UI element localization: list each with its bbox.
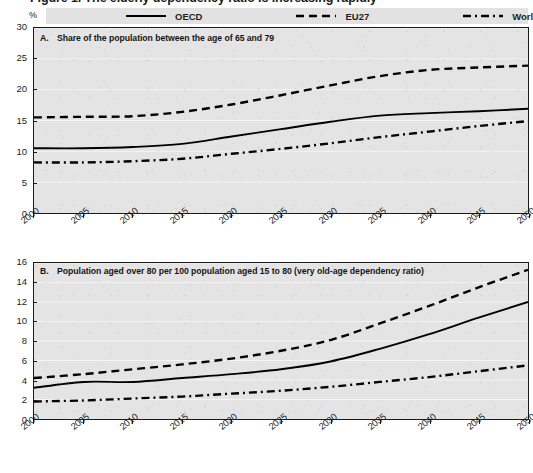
legend-item-oecd[interactable]: OECD (124, 8, 202, 24)
y-tick-label: 6 (7, 356, 27, 366)
line-dashdot-icon (461, 11, 505, 21)
figure-root: Figure 1. The elderly dependency ratio i… (0, 0, 533, 473)
y-tick-label: 2 (7, 395, 27, 405)
y-tick-mark (33, 302, 37, 303)
y-tick-label: 5 (7, 178, 27, 188)
legend-label-world: World (512, 11, 533, 22)
y-tick-label: 16 (7, 257, 27, 267)
y-tick-mark (33, 183, 37, 184)
chart-legend: OECD EU27 World (46, 8, 528, 24)
legend-item-eu27[interactable]: EU27 (294, 8, 369, 24)
y-tick-mark (33, 381, 37, 382)
y-tick-label: 8 (7, 336, 27, 346)
y-tick-mark (33, 282, 37, 283)
legend-label-oecd: OECD (175, 11, 202, 22)
y-tick-label: 14 (7, 277, 27, 287)
y-tick-label: 25 (7, 53, 27, 63)
line-solid-icon (124, 11, 168, 21)
y-tick-label: 12 (7, 297, 27, 307)
y-tick-mark (33, 121, 37, 122)
panel-b-plot-area[interactable] (33, 262, 529, 420)
panel-b-caption-text: Population aged over 80 per 100 populati… (57, 266, 424, 276)
panel-a-caption: A.Share of the population between the ag… (40, 33, 274, 43)
y-tick-mark (33, 341, 37, 342)
panel-b-letter: B. (40, 266, 57, 276)
legend-item-world[interactable]: World (461, 8, 533, 24)
y-tick-mark (33, 89, 37, 90)
legend-label-eu27: EU27 (345, 11, 369, 22)
panel-a-letter: A. (40, 33, 57, 43)
y-tick-label: 20 (7, 84, 27, 94)
y-tick-label: 10 (7, 316, 27, 326)
panel-a-caption-text: Share of the population between the age … (57, 33, 274, 43)
y-tick-mark (33, 58, 37, 59)
y-tick-label: 30 (7, 22, 27, 32)
panel-b-caption: B.Population aged over 80 per 100 popula… (40, 266, 424, 276)
y-tick-mark (33, 152, 37, 153)
panel-a-plot-area[interactable] (33, 27, 529, 214)
y-axis-unit-label: % (29, 10, 37, 20)
y-tick-mark (33, 400, 37, 401)
y-tick-label: 15 (7, 116, 27, 126)
y-tick-label: 4 (7, 376, 27, 386)
y-tick-mark (33, 361, 37, 362)
figure-title: Figure 1. The elderly dependency ratio i… (30, 0, 510, 5)
y-tick-label: 10 (7, 147, 27, 157)
y-tick-mark (33, 321, 37, 322)
line-dashed-icon (294, 11, 338, 21)
